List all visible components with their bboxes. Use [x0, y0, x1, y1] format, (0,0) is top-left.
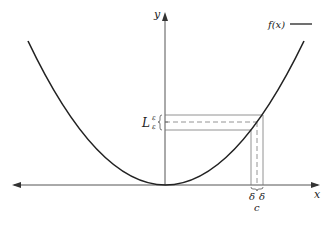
epsilon-lower-label: ε [152, 123, 156, 131]
x-axis-label: x [314, 188, 321, 201]
limit-label: L [141, 116, 150, 130]
delta-right-label: δ [259, 191, 265, 202]
epsilon-band-lines [165, 115, 263, 130]
legend: f(x) [267, 19, 312, 30]
epsilon-upper-label: ε [152, 114, 156, 122]
delta-left-label: δ [249, 191, 255, 202]
y-axis-label: y [153, 8, 161, 21]
x-axis-left-arrow-icon [12, 182, 21, 188]
y-axis [162, 12, 168, 185]
y-axis-arrow-icon [162, 12, 168, 21]
c-point-label: c [254, 202, 260, 213]
limit-dashed-lines [165, 122, 257, 185]
epsilon-brace-icon [158, 115, 168, 130]
epsilon-delta-diagram: y x L ε ε δ δ c f(x) [0, 0, 331, 226]
legend-label: f(x) [267, 19, 285, 30]
